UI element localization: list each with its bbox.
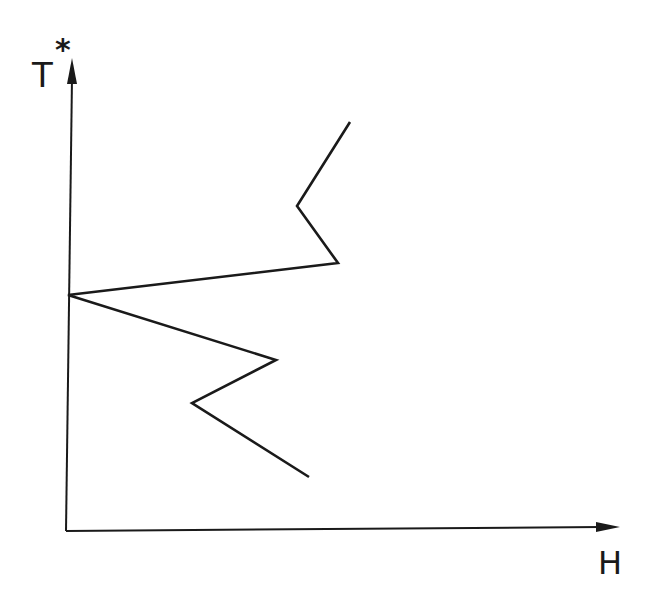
x-axis-label: H: [598, 547, 622, 579]
zigzag-curve: [68, 122, 350, 477]
y-axis-superscript: *: [55, 35, 71, 65]
y-axis-label: T: [32, 58, 53, 92]
x-axis: [66, 527, 602, 531]
x-axis-arrow-icon: [596, 522, 620, 532]
diagram-canvas: [0, 0, 653, 598]
y-axis: [66, 78, 72, 531]
